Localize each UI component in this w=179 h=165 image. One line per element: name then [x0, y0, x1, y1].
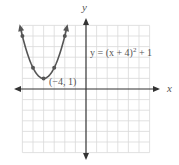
point-marker	[31, 66, 35, 70]
point-marker	[20, 34, 24, 38]
x-axis-right-arrow-icon	[153, 86, 160, 92]
equation-label: y = (x + 4)2 + 1	[90, 46, 152, 58]
vertex-label: (−4, 1)	[49, 76, 76, 87]
equation-tail: + 1	[136, 47, 152, 58]
x-axis-label: x	[167, 82, 172, 94]
equation-text: y = (x + 4)	[90, 47, 133, 58]
y-axis-down-arrow-icon	[83, 153, 89, 160]
y-axis-label: y	[82, 1, 87, 13]
y-axis-up-arrow-icon	[83, 18, 89, 25]
x-axis-left-arrow-icon	[14, 86, 21, 92]
point-marker	[52, 66, 56, 70]
point-marker	[63, 34, 67, 38]
graph-canvas	[0, 0, 179, 165]
x-axis	[14, 86, 160, 92]
point-marker	[42, 76, 46, 80]
